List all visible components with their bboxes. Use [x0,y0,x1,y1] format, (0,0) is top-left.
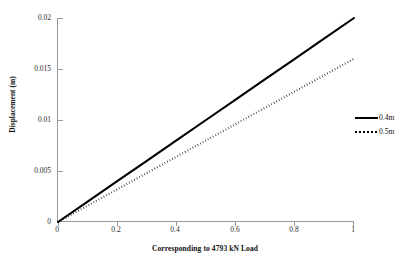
x-tick-label-0: 0 [37,226,77,234]
series-line-0.4m [58,18,354,222]
x-tick-label-1: 1 [333,226,373,234]
legend-label-0.4m: 0.4m [378,114,394,122]
chart-figure: 0.02 0.015 0.01 0.005 0 0 0.2 0.4 0.6 0.… [0,0,403,267]
y-axis-title: Displacement (m) [8,45,17,165]
series-plot-svg [58,18,354,222]
series-line-0.5m [58,59,354,222]
legend-item-0.5m: 0.5m [355,126,403,138]
y-tick-label-0: 0 [3,218,51,226]
y-tick-label-0.02: 0.02 [3,14,51,22]
dotted-line-swatch-icon [355,128,378,136]
y-tick-label-0.005: 0.005 [3,167,51,175]
solid-line-swatch-icon [355,114,378,122]
x-axis-title: Corresponding to 4793 kN Load [57,244,353,253]
plot-area [57,18,353,222]
x-tick-label-0.8: 0.8 [274,226,314,234]
legend-label-0.5m: 0.5m [378,128,394,136]
chart-legend: 0.4m 0.5m [355,112,403,140]
x-tick-label-0.2: 0.2 [96,226,136,234]
x-tick-label-0.4: 0.4 [155,226,195,234]
legend-item-0.4m: 0.4m [355,112,403,124]
x-tick-label-0.6: 0.6 [215,226,255,234]
